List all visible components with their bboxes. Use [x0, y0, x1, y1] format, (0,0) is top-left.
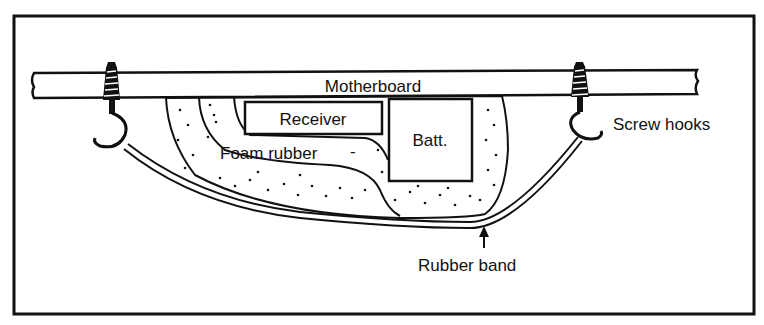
receiver-box: Receiver	[245, 102, 382, 134]
screw-hooks-label: Screw hooks	[613, 115, 710, 134]
battery-box: Batt.	[389, 99, 472, 181]
rubber-band-arrow-icon	[479, 226, 489, 248]
diagram-canvas: Receiver Batt. Foam rubber - Motherboard…	[0, 0, 764, 325]
foam-rubber-leader: -	[350, 142, 356, 161]
receiver-label: Receiver	[279, 110, 346, 129]
battery-label: Batt.	[413, 131, 448, 150]
foam-rubber-label: Foam rubber	[220, 144, 318, 163]
motherboard-label: Motherboard	[325, 77, 421, 96]
rubber-band-label: Rubber band	[418, 256, 516, 275]
